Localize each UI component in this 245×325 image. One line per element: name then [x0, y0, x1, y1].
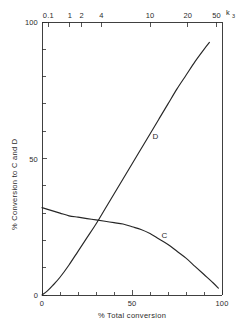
left-axis-tick-labels: 050100 — [25, 18, 38, 300]
top-axis-variable: k 3 — [226, 8, 235, 19]
curve-C — [42, 208, 218, 289]
bottom-axis-tick-labels: 050100 — [40, 299, 229, 308]
top-axis-variable-subscript: 3 — [232, 13, 235, 19]
top-tick-label: 0.1 — [43, 11, 54, 20]
y-tick-label: 100 — [25, 18, 38, 27]
figure-container: 0.1124102050 050100 050100 k 3 DC % Conv… — [0, 0, 245, 325]
y-axis-title: % Conversion to C and D — [10, 138, 19, 230]
curve-label-D: D — [153, 132, 159, 141]
conversion-chart: 0.1124102050 050100 050100 k 3 DC % Conv… — [0, 0, 245, 325]
y-tick-label: 0 — [34, 291, 38, 300]
curve-labels: DC — [153, 132, 168, 239]
top-tick-label: 10 — [146, 11, 155, 20]
top-tick-label: 4 — [99, 11, 103, 20]
data-curves — [42, 42, 218, 295]
curve-label-C: C — [162, 231, 168, 240]
y-tick-label: 50 — [29, 155, 38, 164]
bottom-axis-ticks — [42, 290, 222, 295]
plot-frame — [42, 22, 222, 295]
x-tick-label: 50 — [128, 299, 137, 308]
top-axis-ticks — [48, 22, 216, 27]
x-axis-title: % Total conversion — [98, 311, 166, 320]
top-tick-label: 20 — [183, 11, 192, 20]
top-tick-label: 50 — [212, 11, 221, 20]
top-tick-label: 2 — [79, 11, 83, 20]
x-tick-label: 100 — [215, 299, 228, 308]
top-axis-tick-labels: 0.1124102050 — [43, 11, 221, 20]
left-axis-ticks — [42, 22, 47, 295]
top-tick-label: 1 — [68, 11, 72, 20]
top-axis-variable-label: k — [226, 8, 230, 17]
x-tick-label: 0 — [40, 299, 44, 308]
